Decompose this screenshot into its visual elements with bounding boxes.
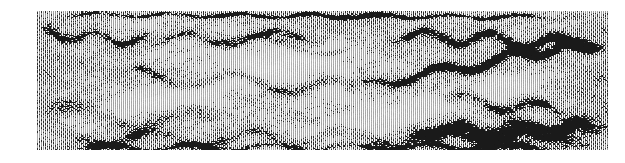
seismic-figure — [0, 0, 625, 163]
seismic-section-panel[interactable] — [37, 11, 608, 150]
seismic-wiggle-canvas[interactable] — [37, 11, 608, 150]
